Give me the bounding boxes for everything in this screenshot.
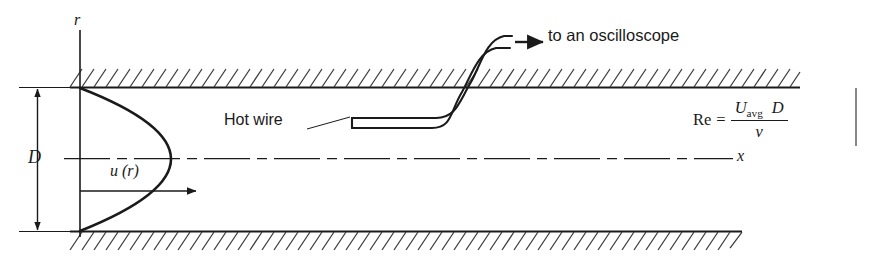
reynolds-symbol: Re (693, 110, 711, 130)
diameter-label: D (28, 148, 41, 166)
velocity-profile-curve (80, 88, 171, 231)
numerator-subscript: avg (747, 107, 763, 119)
hot-wire-label: Hot wire (224, 112, 283, 128)
hot-wire-leader-line (307, 117, 350, 129)
numerator-diameter-symbol: D (772, 98, 784, 117)
reynolds-fraction: UavgD ν (731, 98, 788, 142)
bottom-wall-hatching (70, 232, 742, 250)
reynolds-number-formula: Re = UavgD ν (693, 98, 788, 142)
numerator-velocity-symbol: U (735, 98, 747, 117)
pipe-bottom-wall (70, 232, 742, 251)
oscilloscope-label: to an oscilloscope (548, 27, 679, 44)
fraction-denominator: ν (752, 121, 767, 142)
pipe-top-wall (70, 69, 800, 88)
hot-wire-probe (352, 36, 512, 128)
equals-sign: = (716, 110, 725, 130)
axial-axis-label: x (737, 148, 744, 164)
fraction-numerator: UavgD (731, 98, 788, 120)
velocity-profile-label: u (r) (110, 163, 139, 179)
figure-canvas: to an oscilloscope Hot wire r x D u (r) … (0, 0, 879, 261)
radial-axis-label: r (74, 12, 80, 28)
top-wall-hatching (70, 69, 800, 87)
